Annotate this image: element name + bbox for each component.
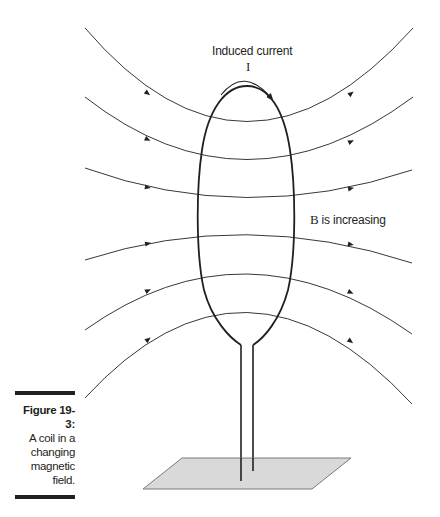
caption-line: field. <box>15 473 75 487</box>
arrow-icon <box>144 90 152 98</box>
caption-line: A coil in a <box>15 431 75 445</box>
figure-caption: Figure 19-3: A coil in a changing magnet… <box>15 391 75 499</box>
caption-line: magnetic <box>15 459 75 473</box>
induced-current-label: Induced current <box>212 44 292 58</box>
arrow-icon <box>144 136 152 143</box>
b-increasing-label: B is increasing <box>310 212 386 228</box>
arrow-icon <box>347 289 355 296</box>
field-line-3 <box>85 168 412 198</box>
induced-current-arrow <box>221 81 271 98</box>
figure-number: Figure 19-3: <box>15 403 75 431</box>
field-line-5 <box>85 274 412 334</box>
field-line-2 <box>85 97 413 160</box>
arrow-icon <box>347 90 355 98</box>
arrow-icon <box>144 336 152 344</box>
caption-top-rule <box>15 391 75 395</box>
field-line-4 <box>85 235 412 263</box>
b-state-text: is increasing <box>318 213 385 227</box>
current-symbol-label: I <box>246 59 250 75</box>
caption-bottom-rule <box>15 495 75 499</box>
field-line-6 <box>85 312 412 404</box>
caption-text: A coil in a changing magnetic field. <box>15 431 75 487</box>
caption-line: changing <box>15 445 75 459</box>
base-plate <box>143 458 351 489</box>
arrow-icon <box>347 138 355 145</box>
coil-loop <box>198 86 295 345</box>
arrow-icon <box>144 184 151 190</box>
arrow-icon <box>347 338 355 346</box>
